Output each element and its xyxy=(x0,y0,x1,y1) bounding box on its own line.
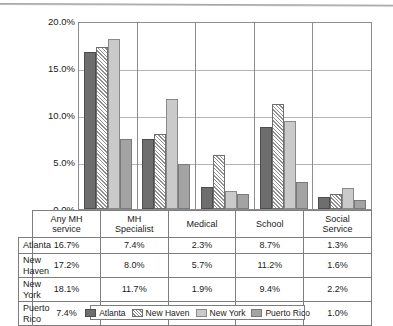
bar xyxy=(260,127,272,209)
table-cell: 7.4% xyxy=(100,238,168,254)
legend-label: New Haven xyxy=(146,308,190,318)
table-cell: 18.1% xyxy=(33,278,101,302)
bar xyxy=(178,164,190,209)
table-column-header: School xyxy=(236,211,304,238)
bar-group xyxy=(313,23,371,209)
legend-label: Atlanta xyxy=(99,308,125,318)
legend-swatch-icon xyxy=(251,309,262,317)
table-row: New York18.1%11.7%1.9%9.4%2.2% xyxy=(19,278,372,302)
table-row-label: Puerto Rico xyxy=(19,302,33,326)
bar-group xyxy=(196,23,255,209)
legend-swatch-icon xyxy=(85,309,96,317)
y-axis-tick-label: 15.0% xyxy=(15,64,75,74)
bar xyxy=(84,52,96,209)
table-cell: 5.7% xyxy=(168,254,236,278)
legend-item: Puerto Rico xyxy=(251,308,309,318)
table-cell: 11.7% xyxy=(100,278,168,302)
bar xyxy=(154,134,166,209)
table-row: Atlanta16.7%7.4%2.3%8.7%1.3% xyxy=(19,238,372,254)
bar xyxy=(272,104,284,209)
bar-group xyxy=(79,23,138,209)
y-axis-tick-label: 5.0% xyxy=(15,158,75,168)
bar xyxy=(330,194,342,209)
legend-item: New Haven xyxy=(132,308,190,318)
table-column-header: SocialService xyxy=(304,211,372,238)
bar-groups xyxy=(79,23,371,209)
table-column-header: Medical xyxy=(168,211,236,238)
bar xyxy=(166,99,178,209)
bar-group xyxy=(255,23,314,209)
bar xyxy=(342,188,354,209)
table-corner-cell xyxy=(19,211,33,238)
table-row-label: Atlanta xyxy=(19,238,33,254)
legend-label: New York xyxy=(210,308,246,318)
bar xyxy=(318,197,330,209)
bar xyxy=(201,187,213,209)
table-cell: 11.2% xyxy=(236,254,304,278)
table-cell: 8.0% xyxy=(100,254,168,278)
table-cell: 1.0% xyxy=(304,302,372,326)
bar xyxy=(296,182,308,209)
table-cell: 9.4% xyxy=(236,278,304,302)
table-cell: 2.3% xyxy=(168,238,236,254)
bar xyxy=(237,194,249,209)
y-axis-tick-label: 10.0% xyxy=(15,111,75,121)
bar xyxy=(96,47,108,209)
legend-swatch-icon xyxy=(196,309,207,317)
table-column-header: Any MHservice xyxy=(33,211,101,238)
table-cell: 1.3% xyxy=(304,238,372,254)
bar xyxy=(108,39,120,209)
legend-item: Atlanta xyxy=(85,308,125,318)
table-cell: 8.7% xyxy=(236,238,304,254)
legend-label: Puerto Rico xyxy=(265,308,309,318)
legend-swatch-icon xyxy=(132,309,143,317)
legend-item: New York xyxy=(196,308,246,318)
table-row: New Haven17.2%8.0%5.7%11.2%1.6% xyxy=(19,254,372,278)
bar xyxy=(142,139,154,209)
table-column-header: MHSpecialist xyxy=(100,211,168,238)
bar xyxy=(284,121,296,209)
table-cell: 2.2% xyxy=(304,278,372,302)
table-row-label: New Haven xyxy=(19,254,33,278)
plot-area xyxy=(78,22,372,210)
table-header-row: Any MHserviceMHSpecialistMedicalSchoolSo… xyxy=(19,211,372,238)
y-axis-tick-label: 20.0% xyxy=(15,17,75,27)
chart-legend: AtlantaNew HavenNew YorkPuerto Rico xyxy=(90,305,305,320)
bar xyxy=(120,139,132,209)
table-cell: 1.6% xyxy=(304,254,372,278)
bar xyxy=(213,155,225,209)
bar xyxy=(225,191,237,209)
top-divider-rule xyxy=(0,3,393,7)
table-row-label: New York xyxy=(19,278,33,302)
bar xyxy=(354,200,366,209)
bar-group xyxy=(138,23,197,209)
table-cell: 1.9% xyxy=(168,278,236,302)
